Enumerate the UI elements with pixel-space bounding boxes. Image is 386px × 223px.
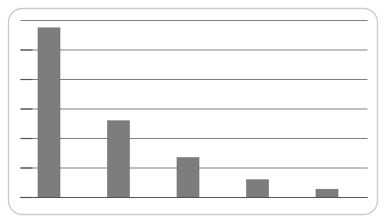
bar-chart-panel: [0, 0, 386, 223]
bar-1[interactable]: [38, 28, 60, 198]
bar-4[interactable]: [247, 180, 269, 198]
bar-5[interactable]: [316, 189, 338, 197]
bar-3[interactable]: [177, 158, 199, 198]
bar-2[interactable]: [108, 121, 130, 198]
bar-chart-figure: [0, 0, 386, 223]
